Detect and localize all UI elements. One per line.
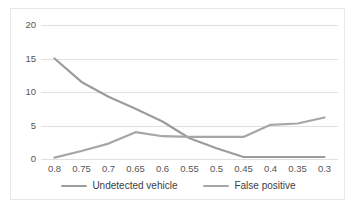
x-axis-tick-label: 0.6 — [149, 161, 176, 177]
x-axis-tick-label: 0.4 — [257, 161, 284, 177]
legend-label: Undetected vehicle — [92, 181, 177, 191]
legend-item-2[interactable]: False positive — [203, 181, 295, 191]
x-axis-tick-label: 0.45 — [230, 161, 257, 177]
x-axis-tick-label: 0.55 — [176, 161, 203, 177]
x-axis-tick-label: 0.7 — [95, 161, 122, 177]
x-axis-tick-label: 0.65 — [122, 161, 149, 177]
legend-label: False positive — [234, 181, 295, 191]
x-axis-tick-label: 0.35 — [284, 161, 311, 177]
x-axis-tick-labels: 0.80.750.70.650.60.550.50.450.40.350.3 — [41, 161, 338, 177]
y-axis-tick-label: 0 — [31, 154, 36, 164]
gridline: 0 — [41, 159, 338, 160]
legend-item-1[interactable]: Undetected vehicle — [61, 181, 177, 191]
y-axis-tick-label: 10 — [25, 87, 36, 97]
legend-swatch-icon — [203, 185, 229, 188]
y-axis-tick-label: 20 — [25, 20, 36, 30]
x-axis-tick-label: 0.75 — [68, 161, 95, 177]
x-axis-tick-label: 0.3 — [311, 161, 338, 177]
chart-container: 20151050 0.80.750.70.650.60.550.50.450.4… — [10, 8, 345, 200]
plot-area: 20151050 — [41, 25, 338, 159]
x-axis-tick-label: 0.8 — [41, 161, 68, 177]
y-axis-tick-label: 5 — [31, 121, 36, 131]
series-line-2 — [55, 117, 325, 157]
x-axis-tick-label: 0.5 — [203, 161, 230, 177]
chart-legend: Undetected vehicleFalse positive — [11, 181, 346, 191]
legend-swatch-icon — [61, 185, 87, 188]
series-line-1 — [55, 59, 325, 157]
series-lines — [41, 25, 338, 159]
y-axis-tick-label: 15 — [25, 54, 36, 64]
